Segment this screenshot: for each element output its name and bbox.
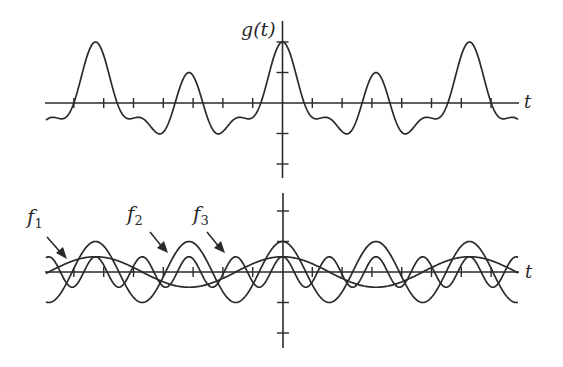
f1-label: f1	[25, 205, 43, 231]
bottom-plot: t f1 f2 f3	[25, 193, 533, 348]
f3-label: f3	[191, 202, 209, 228]
bottom-x-label: t	[525, 261, 533, 282]
f2-label: f2	[125, 202, 143, 228]
top-y-label: g(t)	[241, 18, 276, 40]
top-plot: g(t) t	[45, 18, 532, 178]
top-x-label: t	[524, 91, 532, 112]
figure: g(t) t t f1 f2 f3	[0, 0, 563, 367]
